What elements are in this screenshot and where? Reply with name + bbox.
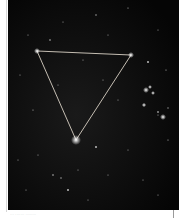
bottom-star — [71, 135, 81, 145]
top-left-star — [34, 48, 40, 54]
starfield-graphic — [8, 0, 179, 210]
top-right-star — [128, 52, 134, 58]
page-margin-line — [6, 0, 7, 212]
page-edge-mark — [173, 210, 174, 218]
photo-caption: ··· ······· ········ — [10, 211, 160, 218]
starfield-photo — [8, 0, 179, 210]
